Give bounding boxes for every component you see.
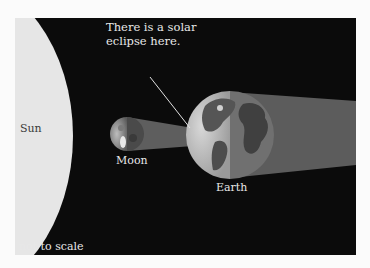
earth-globe bbox=[186, 91, 274, 179]
sun-label: Sun bbox=[20, 122, 42, 135]
annotation-line-1: There is a solar bbox=[106, 20, 196, 34]
annotation-line-2: eclipse here. bbox=[106, 34, 196, 48]
sun-shape bbox=[15, 18, 73, 255]
eclipse-annotation: There is a solar eclipse here. bbox=[106, 20, 196, 48]
scale-note: not to scale bbox=[19, 240, 84, 253]
annotation-pointer-line bbox=[150, 77, 190, 128]
diagram-graphic bbox=[15, 18, 356, 255]
moon-label: Moon bbox=[116, 154, 148, 167]
eclipse-diagram: Sun Moon Earth There is a solar eclipse … bbox=[15, 18, 356, 255]
earth-label: Earth bbox=[216, 181, 247, 194]
moon-globe bbox=[110, 117, 144, 151]
